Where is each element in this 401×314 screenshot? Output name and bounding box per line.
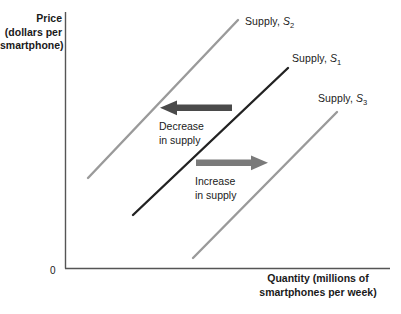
- decrease-label-line1: Decrease: [159, 120, 204, 132]
- curve-label-s2-symbol: S2: [283, 15, 294, 27]
- x-axis-title-line2: smartphones per week): [259, 286, 376, 298]
- curve-label-s2-text: Supply,: [245, 15, 283, 27]
- supply-shift-figure: Price(dollars persmartphone) Quantity (m…: [0, 0, 401, 314]
- y-axis-title-line3: smartphone): [0, 39, 64, 51]
- curve-label-s2: Supply, S2: [245, 15, 294, 32]
- y-axis-title-line2: (dollars per: [5, 26, 62, 38]
- x-axis-title: Quantity (millions ofsmartphones per wee…: [238, 272, 398, 299]
- decrease-in-supply-label: Decreasein supply: [159, 120, 204, 147]
- origin-label: 0: [50, 264, 56, 277]
- increase-label-line1: Increase: [195, 175, 235, 187]
- curve-label-s3-symbol: S3: [356, 92, 367, 104]
- y-axis-title: Price(dollars persmartphone): [0, 12, 62, 53]
- curve-label-s2-subscript: 2: [290, 21, 294, 30]
- x-axis-title-line1: Quantity (millions of: [267, 272, 369, 284]
- curve-label-s3-text: Supply,: [318, 92, 356, 104]
- supply-curve-s2: [88, 20, 238, 178]
- curve-label-s1-symbol: S1: [330, 52, 341, 64]
- y-axis-title-line1: Price: [36, 12, 62, 24]
- decrease-in-supply-arrow: [160, 101, 232, 116]
- increase-in-supply-arrow: [196, 156, 268, 171]
- curve-label-s1-text: Supply,: [292, 52, 330, 64]
- increase-in-supply-label: Increasein supply: [195, 175, 236, 202]
- increase-label-line2: in supply: [195, 189, 236, 201]
- curve-label-s1-subscript: 1: [337, 58, 341, 67]
- curve-label-s3: Supply, S3: [318, 92, 367, 109]
- curve-label-s1: Supply, S1: [292, 52, 341, 69]
- decrease-label-line2: in supply: [159, 134, 200, 146]
- curve-label-s3-subscript: 3: [363, 98, 367, 107]
